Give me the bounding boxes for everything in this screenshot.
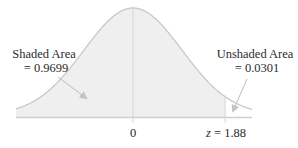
z-value: = 1.88 (211, 126, 246, 140)
shaded-area-label-line2: = 0.9699 (24, 61, 69, 75)
normal-distribution-diagram: Shaded Area = 0.9699 Unshaded Area = 0.0… (0, 0, 298, 148)
unshaded-area-arrow (233, 79, 247, 111)
tick-label-z: z = 1.88 (205, 126, 246, 140)
unshaded-area-label-line1: Unshaded Area (217, 47, 294, 61)
unshaded-area-label-line2: = 0.0301 (235, 61, 280, 75)
tick-label-mean: 0 (130, 126, 136, 140)
shaded-area-label-line1: Shaded Area (12, 47, 76, 61)
